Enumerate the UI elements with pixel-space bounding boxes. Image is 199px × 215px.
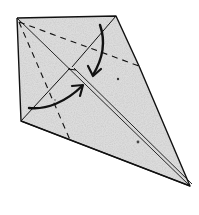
speckle — [137, 141, 140, 144]
diagram-canvas — [0, 0, 199, 215]
speckle — [117, 78, 119, 80]
origami-diagram — [0, 0, 199, 215]
speckle — [54, 99, 56, 101]
